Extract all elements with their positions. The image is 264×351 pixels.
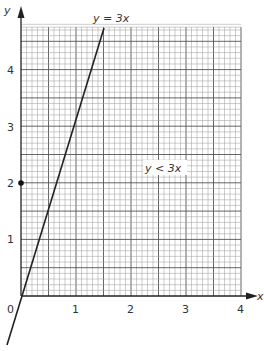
y-tick-4: 4	[7, 64, 14, 77]
region-label: y < 3x	[144, 162, 182, 175]
x-axis-label: x	[256, 290, 264, 303]
point-0-2	[18, 180, 24, 186]
grid	[21, 24, 241, 296]
y-axis-label: y	[3, 4, 11, 17]
y-tick-1: 1	[7, 233, 14, 246]
x-tick-2: 2	[127, 303, 134, 316]
inequality-graph: y x 0 1 2 3 4 1 2 3 4 y = 3x y < 3x	[0, 0, 264, 351]
y-axis-arrow-icon	[18, 6, 25, 18]
x-tick-1: 1	[72, 303, 79, 316]
y-tick-3: 3	[7, 121, 14, 134]
origin-label: 0	[7, 303, 14, 316]
line-label: y = 3x	[92, 12, 130, 25]
x-tick-3: 3	[182, 303, 189, 316]
x-tick-4: 4	[237, 303, 244, 316]
y-tick-2: 2	[7, 177, 14, 190]
